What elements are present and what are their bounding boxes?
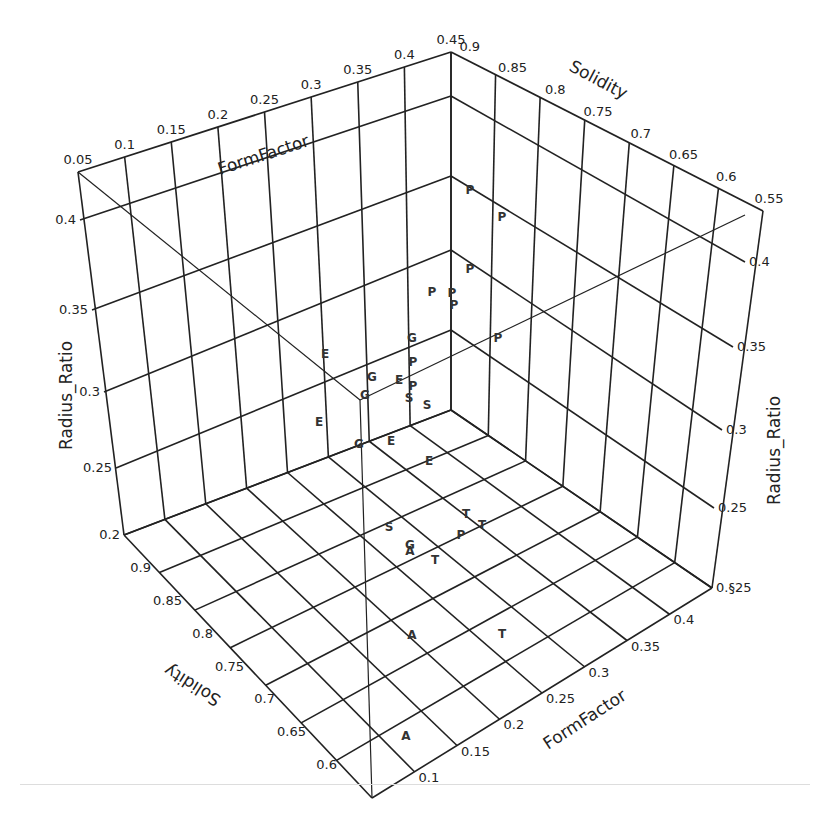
tick-solidity-bottom: 0.75 bbox=[215, 659, 244, 674]
grid-line bbox=[247, 488, 500, 719]
tick-formfactor-bottom: 0.1 bbox=[419, 770, 440, 785]
axis-label-radius-right: Radius_Ratio bbox=[764, 396, 785, 505]
tick-formfactor-top: 0.05 bbox=[64, 152, 93, 167]
data-point-E: E bbox=[321, 347, 329, 361]
tick-solidity-top: 0.65 bbox=[669, 147, 698, 162]
tick-solidity-top: 0.55 bbox=[755, 191, 784, 206]
data-point-S: S bbox=[423, 398, 432, 412]
tick-solidity-bottom: 0.6 bbox=[316, 757, 337, 772]
grid-line bbox=[360, 215, 745, 400]
axis-label-radius-left: Radius_Ratio bbox=[56, 341, 77, 450]
data-point-E: E bbox=[315, 415, 323, 429]
tick-solidity-bottom: 0.65 bbox=[277, 724, 306, 739]
tick-radius-left: 0.2 bbox=[99, 527, 120, 542]
tick-formfactor-top: 0.2 bbox=[208, 107, 229, 122]
tick-radius-right: 0.35 bbox=[737, 339, 766, 354]
tick-radius-right: 0.§25 bbox=[716, 580, 751, 595]
grid-line bbox=[451, 330, 714, 508]
tick-formfactor-top: 0.1 bbox=[114, 137, 135, 152]
grid-line bbox=[125, 157, 165, 519]
tick-radius-left: 0.35 bbox=[59, 302, 88, 317]
data-point-P: P bbox=[466, 183, 475, 197]
grid-line bbox=[404, 67, 410, 426]
data-point-P: P bbox=[409, 355, 418, 369]
3d-scatter-chart: 0.050.10.150.20.250.30.350.40.450.90.850… bbox=[0, 0, 827, 822]
axis-label-solidity-top: Solidity bbox=[566, 56, 631, 103]
data-point-A: A bbox=[401, 729, 411, 743]
grid-line bbox=[116, 330, 451, 468]
bottom-divider bbox=[20, 784, 810, 785]
data-point-P: P bbox=[450, 298, 459, 312]
tick-solidity-top: 0.8 bbox=[545, 82, 566, 97]
data-point-A: A bbox=[407, 628, 417, 642]
grid-line bbox=[526, 97, 541, 460]
data-point-P: P bbox=[498, 210, 507, 224]
tick-solidity-bottom: 0.9 bbox=[130, 560, 151, 575]
data-point-P: P bbox=[466, 262, 475, 276]
grid-line bbox=[218, 127, 247, 488]
data-point-T: T bbox=[462, 507, 471, 521]
tick-radius-left: 0.4 bbox=[55, 212, 76, 227]
data-point-E: E bbox=[395, 373, 403, 387]
data-point-P: P bbox=[428, 285, 437, 299]
data-point-T: T bbox=[478, 518, 487, 532]
tick-radius-right: 0.3 bbox=[726, 422, 747, 437]
grid-line bbox=[92, 176, 451, 310]
tick-solidity-top: 0.75 bbox=[584, 104, 613, 119]
tick-radius-left: 0.25 bbox=[83, 460, 112, 475]
grid-line bbox=[410, 426, 669, 615]
grid-line bbox=[104, 250, 451, 392]
tick-formfactor-top: 0.4 bbox=[394, 47, 415, 62]
grid-line bbox=[372, 588, 712, 798]
tick-formfactor-top: 0.3 bbox=[301, 77, 322, 92]
grid-line bbox=[311, 97, 328, 457]
tick-formfactor-top: 0.25 bbox=[250, 92, 279, 107]
grid-line bbox=[451, 410, 712, 588]
tick-solidity-top: 0.7 bbox=[630, 126, 651, 141]
grid-line bbox=[563, 120, 585, 486]
tick-radius-left: 0.3 bbox=[79, 384, 100, 399]
data-point-G: G bbox=[407, 331, 417, 345]
data-point-G: G bbox=[360, 388, 370, 402]
grid-line bbox=[451, 250, 722, 430]
data-point-P: P bbox=[494, 331, 503, 345]
grid-line bbox=[78, 172, 124, 535]
grid-line bbox=[265, 112, 288, 473]
data-point-G: G bbox=[354, 437, 364, 451]
tick-solidity-bottom: 0.85 bbox=[153, 593, 182, 608]
tick-radius-right: 0.4 bbox=[749, 254, 770, 269]
data-point-T: T bbox=[498, 627, 507, 641]
grid-line bbox=[230, 486, 563, 647]
grid-line bbox=[451, 176, 733, 347]
data-point-T: T bbox=[431, 553, 440, 567]
data-point-A: A bbox=[405, 544, 415, 558]
tick-formfactor-bottom: 0.3 bbox=[589, 665, 610, 680]
tick-formfactor-bottom: 0.25 bbox=[546, 691, 575, 706]
tick-formfactor-top: 0.35 bbox=[343, 62, 372, 77]
grid-line bbox=[206, 504, 457, 746]
tick-formfactor-bottom: 0.4 bbox=[674, 612, 695, 627]
data-point-S: S bbox=[385, 520, 394, 534]
tick-radius-right: 0.25 bbox=[718, 500, 747, 515]
tick-solidity-top: 0.85 bbox=[498, 60, 527, 75]
grid-line bbox=[360, 400, 372, 798]
tick-formfactor-bottom: 0.15 bbox=[461, 744, 490, 759]
tick-solidity-top: 0.6 bbox=[716, 169, 737, 184]
grid-line bbox=[78, 172, 360, 400]
data-point-E: E bbox=[425, 454, 433, 468]
grid-line bbox=[488, 75, 495, 436]
data-point-G: G bbox=[367, 370, 377, 384]
grid-line bbox=[600, 143, 629, 512]
data-point-S: S bbox=[405, 391, 414, 405]
tick-solidity-top: 0.9 bbox=[459, 39, 480, 54]
data-point-P: P bbox=[457, 528, 466, 542]
tick-formfactor-top: 0.15 bbox=[157, 122, 186, 137]
tick-solidity-bottom: 0.7 bbox=[254, 691, 275, 706]
tick-formfactor-bottom: 0.35 bbox=[631, 639, 660, 654]
axis-label-formfactor-top: FormFactor bbox=[215, 130, 311, 178]
grid-line bbox=[637, 166, 673, 538]
grid-line bbox=[301, 537, 637, 723]
tick-solidity-bottom: 0.8 bbox=[192, 626, 213, 641]
grid-line bbox=[171, 142, 206, 504]
tick-formfactor-bottom: 0.2 bbox=[504, 717, 525, 732]
